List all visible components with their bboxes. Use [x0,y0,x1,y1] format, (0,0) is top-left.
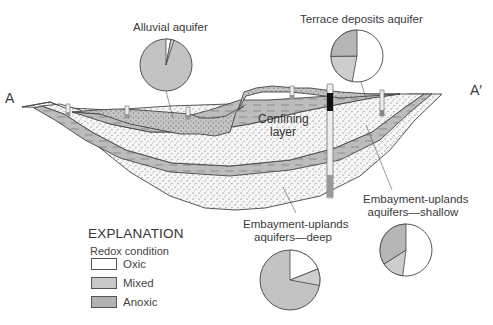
legend-subtitle: Redox condition [90,245,169,257]
legend-item-oxic: Oxic [91,257,146,271]
pie-title-deep-2: aquifers—deep [243,231,343,244]
legend-label-anoxic: Anoxic [123,296,158,308]
pie-shallow [380,224,432,276]
pie-title-deep-1: Embayment-uplands [243,218,343,231]
well-icon [290,86,294,99]
section-left-label: A [5,92,14,105]
well-icon [125,106,129,118]
pie-title-shallow-2: aquifers—shallow [363,206,463,219]
well-icon [380,90,384,116]
section-right-label: A′ [470,84,482,97]
confining-layer-label-2: layer [270,126,296,139]
pie-title-shallow-1: Embayment-uplands [363,193,463,206]
legend-item-mixed: Mixed [91,276,154,290]
legend-swatch-anoxic [91,296,117,308]
legend-label-oxic: Oxic [123,258,146,270]
well-icon [186,107,190,119]
legend-item-anoxic: Anoxic [91,295,158,309]
legend-label-mixed: Mixed [123,277,154,289]
pie-title-terrace: Terrace deposits aquifer [300,13,423,26]
pie-deep [260,250,320,310]
well-icon [66,104,70,116]
deep-well-icon [327,84,333,198]
pie-alluvial [140,39,192,91]
legend-swatch-mixed [91,277,117,289]
diagram-root: A A′ Confining layer Alluvial aquifer Te… [0,0,493,325]
pie-title-alluvial: Alluvial aquifer [133,21,208,34]
legend-swatch-oxic [91,258,117,270]
cross-section-drawing [0,0,493,325]
pie-terrace [331,30,383,82]
legend-title: EXPLANATION [88,226,184,241]
